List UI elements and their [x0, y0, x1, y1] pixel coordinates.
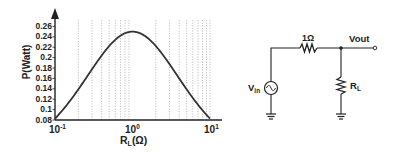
load-resistor-icon — [337, 77, 345, 94]
y-tick-label: 0.18 — [35, 63, 52, 73]
circuit-schematic — [265, 44, 377, 119]
y-axis-title: P(Watt) — [21, 45, 32, 80]
y-tick-label: 0.2 — [40, 52, 52, 62]
load-resistor-label: RL — [350, 80, 361, 92]
series-resistor-label: 1Ω — [302, 33, 314, 43]
y-tick-label: 0.16 — [35, 73, 52, 83]
wire — [271, 48, 300, 82]
circuit-labels: 1Ω Vout Vin RL — [248, 33, 370, 94]
ground-icon — [266, 114, 276, 119]
sine-icon — [267, 85, 276, 90]
output-label: Vout — [349, 33, 370, 44]
x-tick-label: 101 — [204, 123, 219, 135]
y-tick-label: 0.22 — [35, 42, 52, 52]
series-resistor-icon — [300, 44, 317, 52]
ground-icon — [336, 114, 346, 119]
output-terminal — [373, 46, 377, 50]
y-tick-label: 0.14 — [35, 83, 52, 93]
x-tick-label: 10-1 — [49, 123, 66, 135]
y-tick-label: 0.26 — [35, 21, 52, 31]
y-axis-arrow-icon — [51, 8, 59, 19]
y-tick-label: 0.12 — [35, 94, 52, 104]
source-label: Vin — [248, 82, 260, 94]
y-tick-labels: 0.26 0.24 0.22 0.2 0.18 0.16 0.14 0.12 0… — [35, 21, 52, 125]
figure: 0.26 0.24 0.22 0.2 0.18 0.16 0.14 0.12 0… — [0, 0, 393, 157]
y-tick-label: 0.1 — [40, 104, 52, 114]
y-tick-label: 0.24 — [35, 31, 52, 41]
power-vs-load-chart: 0.26 0.24 0.22 0.2 0.18 0.16 0.14 0.12 0… — [21, 8, 222, 147]
x-axis-title: RL(Ω) — [120, 134, 147, 147]
